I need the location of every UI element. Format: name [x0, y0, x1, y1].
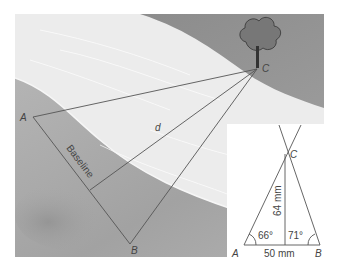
triangulation-diagram: A B C d Baseline C A B 66° 71° 50 mm 64 … [0, 0, 339, 270]
angle-b-value: 71° [288, 230, 303, 241]
angle-a-value: 66° [258, 230, 273, 241]
point-a-label: A [19, 112, 27, 123]
point-b-label: B [131, 245, 138, 256]
height-length-label: 64 mm [272, 185, 283, 216]
base-length-label: 50 mm [264, 248, 295, 259]
scale-drawing-inset: C A B 66° 71° 50 mm 64 mm [227, 124, 339, 270]
inset-point-a: A [231, 248, 239, 259]
distance-label: d [155, 122, 161, 133]
inset-point-c: C [290, 149, 298, 160]
inset-point-b: B [315, 248, 322, 259]
point-c-label: C [262, 63, 270, 74]
